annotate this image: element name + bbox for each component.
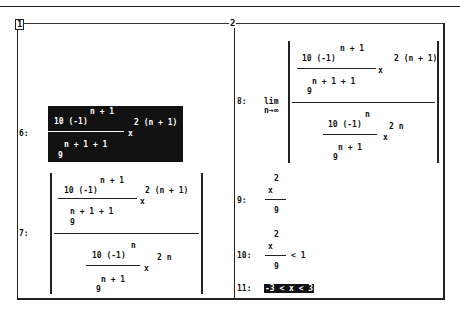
abs-bar-left (288, 41, 290, 163)
fraction-bar (323, 134, 377, 135)
denominator: 9 (70, 218, 75, 227)
fraction-bar (48, 131, 124, 132)
main-fraction-bar (292, 102, 435, 103)
denominator: 9 (333, 153, 338, 162)
denominator: 9 (96, 285, 101, 294)
exponent: 2 (274, 174, 279, 183)
main-fraction-bar (54, 233, 199, 234)
variable: x (128, 129, 133, 138)
abs-bar-left (50, 173, 52, 294)
exponent: n + 1 + 1 (312, 77, 355, 86)
abs-bar-right (201, 173, 203, 294)
highlight-box (48, 106, 183, 162)
numerator: 10 (-1) (54, 117, 88, 126)
numerator: x (268, 242, 273, 251)
expression-label: 9: (237, 196, 247, 205)
variable: x (383, 133, 388, 142)
exponent: 2 (n + 1) (134, 118, 177, 127)
denominator: 9 (274, 206, 279, 215)
numerator: x (268, 186, 273, 195)
variable: x (144, 264, 149, 273)
highlighted-result: -3 < x < 3 (264, 284, 314, 293)
expression-label: 6: (19, 129, 29, 138)
exponent: n + 1 (338, 143, 362, 152)
expression-label: 10: (237, 251, 251, 260)
exponent: 2 (274, 230, 279, 239)
limit-operator: lim (264, 97, 278, 106)
exponent: n + 1 (100, 176, 124, 185)
fraction-bar (297, 68, 376, 69)
exponent: n + 1 (101, 275, 125, 284)
limit-subscript: n→∞ (264, 106, 278, 115)
exponent: 2 (n + 1) (145, 186, 188, 195)
pane-divider[interactable] (234, 23, 235, 299)
numerator: 10 (-1) (328, 120, 362, 129)
exponent: n + 1 + 1 (64, 140, 107, 149)
denominator: 9 (307, 87, 312, 96)
exponent: 2 n (389, 122, 403, 131)
fraction-bar (265, 199, 286, 200)
top-rule (0, 6, 460, 7)
fraction-bar (86, 265, 140, 266)
variable: x (378, 66, 383, 75)
pane-2-number[interactable]: 2 (229, 19, 236, 28)
pane-1-number[interactable]: 1 (15, 19, 24, 30)
numerator: 10 (-1) (64, 186, 98, 195)
exponent: 2 (n + 1) (394, 54, 437, 63)
exponent: n + 1 (340, 44, 364, 53)
relation: < 1 (291, 251, 305, 260)
fraction-bar (265, 255, 286, 256)
exponent: n + 1 (90, 107, 114, 116)
exponent: 2 n (157, 253, 171, 262)
denominator: 9 (58, 151, 63, 160)
variable: x (140, 197, 145, 206)
exponent: n + 1 + 1 (70, 207, 113, 216)
exponent: n (365, 110, 370, 119)
numerator: 10 (-1) (92, 251, 126, 260)
expression-label: 8: (237, 97, 247, 106)
denominator: 9 (274, 262, 279, 271)
fraction-bar (58, 198, 137, 199)
expression-label: 11: (237, 284, 251, 293)
numerator: 10 (-1) (302, 54, 336, 63)
expression-label: 7: (19, 229, 29, 238)
exponent: n (131, 241, 136, 250)
